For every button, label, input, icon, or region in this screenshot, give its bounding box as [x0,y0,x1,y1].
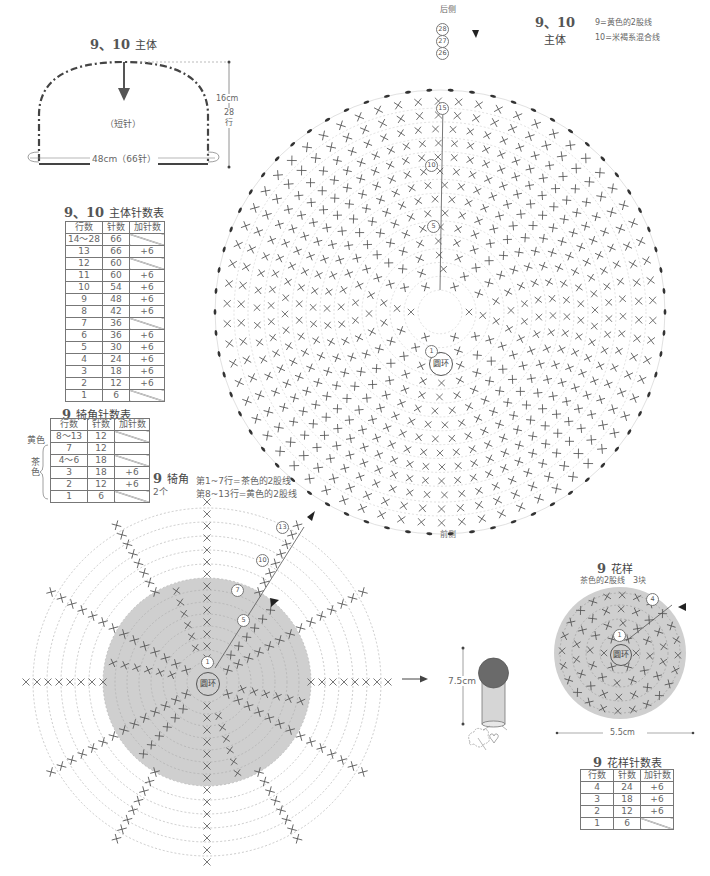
cell-count: 6 [614,818,641,830]
row-marker: 10 [425,159,438,172]
table-row: 424+6 [581,782,674,794]
header-rows: 行数 [581,770,614,782]
horn-chart-title-text: 犄角 [167,473,189,486]
table-row: 16 [581,818,674,830]
cell-inc: +6 [641,794,674,806]
horn-center-ring-label: 圆环 [196,672,220,696]
row-marker: 13 [276,521,289,534]
flower-center-ring-label: 圆环 [610,644,632,666]
row-marker: 15 [436,102,449,115]
header-count: 针数 [614,770,641,782]
flower-count-table: 行数 针数 加针数 424+6 318+6 212+6 16 [580,769,674,830]
cell-inc: +6 [641,806,674,818]
table-row: 212+6 [581,806,674,818]
arrow-right-icon [400,674,430,684]
cell-count: 12 [614,806,641,818]
row-marker: 4 [646,593,659,606]
horn-height-label: 7.5cm [448,676,476,686]
cell-row: 3 [581,794,614,806]
horn-chart-title-num: 9 [153,471,162,486]
cell-row: 1 [581,818,614,830]
cell-count: 18 [614,794,641,806]
cell-row: 2 [581,806,614,818]
row-marker: 5 [427,220,440,233]
cell-inc [641,818,674,830]
horn-note-1: 第1~7行=茶色的2股线 [196,474,291,487]
flower-width-label: 5.5cm [610,728,635,737]
row-marker: 10 [256,554,269,567]
main-crochet-chart [0,0,710,540]
row-marker: 5 [237,614,250,627]
row-marker: 7 [231,584,244,597]
flower-table-title-num: 9 [593,755,602,770]
row-marker: 1 [425,345,438,358]
header-inc: 加针数 [641,770,674,782]
row-marker: 1 [613,629,626,642]
table-row: 318+6 [581,794,674,806]
finished-horn-illustration [440,640,550,760]
table-header: 行数 针数 加针数 [581,770,674,782]
cell-row: 4 [581,782,614,794]
row-marker: 1 [201,656,214,669]
row-marker: 26 [436,47,449,60]
cell-inc: +6 [641,782,674,794]
cell-count: 24 [614,782,641,794]
